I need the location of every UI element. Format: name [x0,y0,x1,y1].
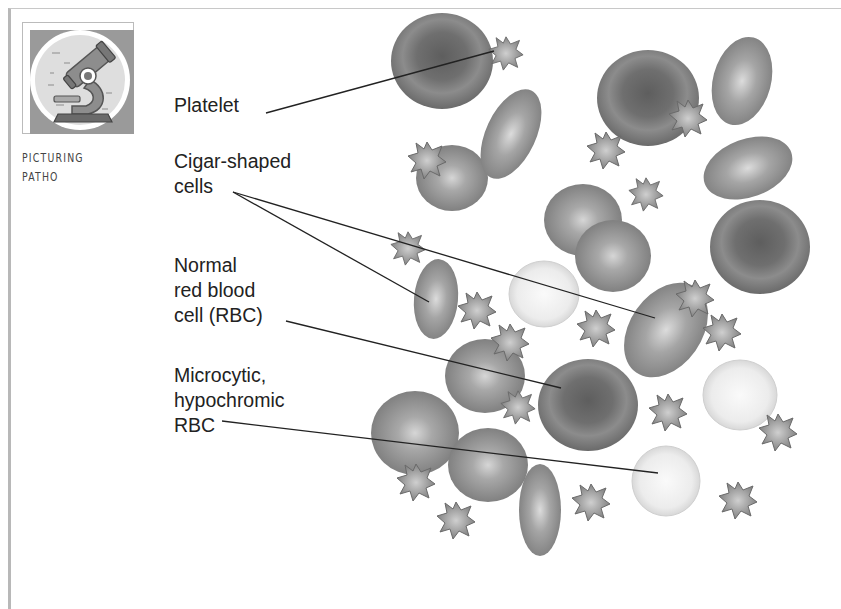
spherocyte-cells [371,145,651,502]
